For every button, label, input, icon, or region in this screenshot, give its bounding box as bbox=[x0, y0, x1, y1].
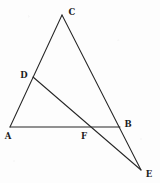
vertex-label-C: C bbox=[69, 8, 76, 17]
segment-A-C bbox=[10, 15, 62, 127]
vertex-label-E: E bbox=[146, 170, 152, 179]
segment-C-E bbox=[62, 15, 141, 170]
vertex-label-A: A bbox=[5, 132, 12, 141]
figure-canvas bbox=[0, 0, 160, 183]
vertex-label-B: B bbox=[124, 120, 131, 129]
vertex-label-F: F bbox=[81, 132, 87, 141]
vertex-label-D: D bbox=[20, 71, 27, 80]
geometry-figure: C D A F B E bbox=[0, 0, 160, 183]
